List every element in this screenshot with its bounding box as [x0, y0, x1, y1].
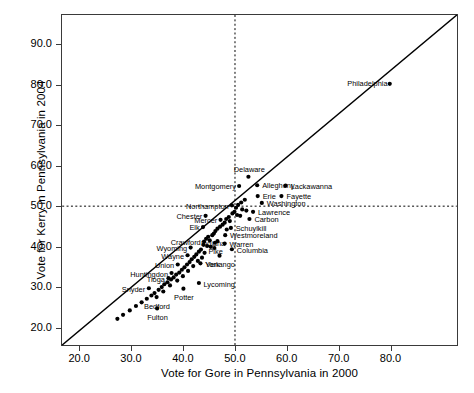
y-axis-tick-label: 60.0 [4, 159, 52, 171]
data-point-unlabeled[interactable] [161, 289, 165, 293]
x-axis-tick [131, 346, 132, 351]
data-point-label: Lackawanna [291, 183, 333, 191]
data-point[interactable] [251, 210, 255, 214]
data-point-unlabeled[interactable] [240, 207, 244, 211]
x-axis-title: Vote for Gore in Pennsylvania in 2000 [61, 367, 458, 379]
data-point[interactable] [185, 253, 189, 257]
x-axis-tick-label: 80.0 [361, 352, 421, 364]
data-point[interactable] [218, 218, 222, 222]
data-point-unlabeled[interactable] [115, 317, 119, 321]
data-point[interactable] [255, 183, 259, 187]
x-axis-tick [339, 346, 340, 351]
data-point[interactable] [279, 194, 283, 198]
data-point[interactable] [246, 175, 250, 179]
data-point-label: Elk [189, 224, 199, 232]
data-point-label: Potter [174, 294, 194, 302]
data-point-unlabeled[interactable] [168, 283, 172, 287]
data-point-label: Northampton [186, 203, 229, 211]
data-point[interactable] [230, 203, 234, 207]
x-axis-tick [235, 346, 236, 351]
chart-root: Vote for Kerry in Pennsylvania in 2004 V… [0, 0, 474, 393]
y-axis-tick-label: 90.0 [4, 37, 52, 49]
data-point-unlabeled[interactable] [200, 256, 204, 260]
data-point[interactable] [237, 184, 241, 188]
y-axis-tick-label: 50.0 [4, 199, 52, 211]
y-axis-tick-label: 70.0 [4, 118, 52, 130]
data-point-layer [115, 82, 392, 321]
data-point-unlabeled[interactable] [230, 211, 234, 215]
data-point-unlabeled[interactable] [225, 227, 229, 231]
data-point-unlabeled[interactable] [160, 285, 164, 289]
data-point[interactable] [260, 201, 264, 205]
data-point-unlabeled[interactable] [238, 214, 242, 218]
data-point-label: Columbia [237, 247, 268, 255]
data-point-label: Bedford [144, 303, 170, 311]
data-point-label: Washington [267, 200, 306, 208]
data-point-unlabeled[interactable] [202, 251, 206, 255]
data-point-unlabeled[interactable] [134, 304, 138, 308]
data-point[interactable] [147, 286, 151, 290]
data-point-unlabeled[interactable] [234, 206, 238, 210]
data-point-unlabeled[interactable] [243, 198, 247, 202]
x-axis-tick [391, 346, 392, 351]
data-point-unlabeled[interactable] [121, 313, 125, 317]
data-point-label: Wayne [161, 253, 184, 261]
data-point-label: Delaware [234, 166, 265, 174]
identity-line [62, 15, 457, 345]
data-point-label: Pike [208, 248, 222, 256]
data-point-unlabeled[interactable] [186, 269, 190, 273]
reference-lines [62, 15, 457, 345]
data-point[interactable] [176, 262, 180, 266]
y-axis-tick-label: 20.0 [4, 321, 52, 333]
data-point-unlabeled[interactable] [149, 293, 153, 297]
data-point[interactable] [223, 233, 227, 237]
data-point[interactable] [229, 226, 233, 230]
data-point[interactable] [201, 225, 205, 229]
y-axis-tick-label: 40.0 [4, 240, 52, 252]
data-point-unlabeled[interactable] [157, 288, 161, 292]
data-point-unlabeled[interactable] [181, 274, 185, 278]
data-point-label: Snyder [122, 286, 145, 294]
data-point[interactable] [197, 281, 201, 285]
x-axis-tick [79, 346, 80, 351]
data-point-label: Fulton [147, 314, 168, 322]
data-point-unlabeled[interactable] [175, 279, 179, 283]
y-axis-tick-label: 30.0 [4, 280, 52, 292]
data-point[interactable] [198, 261, 202, 265]
data-point[interactable] [256, 194, 260, 198]
data-point-label: Carbon [254, 216, 278, 224]
data-point[interactable] [169, 271, 173, 275]
x-axis-tick [287, 346, 288, 351]
x-axis-tick [183, 346, 184, 351]
data-point[interactable] [210, 233, 214, 237]
data-point-label: Tioga [147, 276, 165, 284]
data-point-label: Lycoming [204, 281, 235, 289]
plot-area [62, 15, 457, 345]
data-point[interactable] [181, 287, 185, 291]
data-point[interactable] [247, 217, 251, 221]
data-point-unlabeled[interactable] [145, 297, 149, 301]
data-point-unlabeled[interactable] [244, 208, 248, 212]
data-point-label: York [205, 261, 220, 269]
data-point-unlabeled[interactable] [128, 308, 132, 312]
data-point-unlabeled[interactable] [191, 264, 195, 268]
data-point-unlabeled[interactable] [224, 217, 228, 221]
data-point[interactable] [155, 295, 159, 299]
data-point-label: Philadelphia [347, 80, 387, 88]
data-point-unlabeled[interactable] [228, 219, 232, 223]
plot-frame: PhiladelphiaDelawareMontgomeryAlleghenyL… [61, 14, 458, 346]
data-point[interactable] [388, 82, 392, 86]
data-point-label: Montgomery [195, 183, 236, 191]
y-axis-tick-label: 80.0 [4, 78, 52, 90]
